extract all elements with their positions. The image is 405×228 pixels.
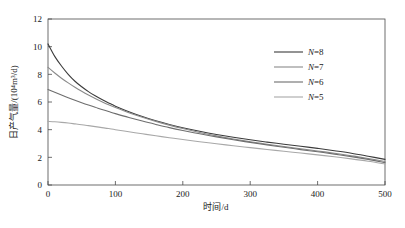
y-tick-label: 12 (33, 14, 42, 24)
x-tick-label: 500 (378, 189, 392, 199)
x-tick-label: 0 (46, 189, 51, 199)
y-tick-label: 0 (38, 180, 43, 190)
chart-figure: 0100200300400500 024681012 N=8N=7N=6N=5 … (0, 0, 405, 228)
x-tick-label: 300 (243, 189, 257, 199)
x-tick-label: 100 (109, 189, 123, 199)
y-tick-label: 4 (38, 125, 43, 135)
legend-label-7: N=7 (307, 62, 324, 72)
y-axis-title: 日产气量/(10⁴m³/d) (8, 65, 19, 138)
y-tick-label: 6 (38, 97, 43, 107)
x-tick-label: 200 (176, 189, 190, 199)
chart-background (0, 0, 405, 228)
y-tick-label: 10 (33, 42, 43, 52)
x-tick-label: 400 (311, 189, 325, 199)
line-chart: 0100200300400500 024681012 N=8N=7N=6N=5 … (0, 0, 405, 228)
legend-label-8: N=8 (307, 47, 324, 57)
y-tick-label: 8 (38, 70, 43, 80)
x-axis-title: 时间/d (203, 201, 229, 212)
legend-label-5: N=5 (307, 92, 324, 102)
y-tick-label: 2 (38, 153, 43, 163)
legend-label-6: N=6 (307, 77, 324, 87)
